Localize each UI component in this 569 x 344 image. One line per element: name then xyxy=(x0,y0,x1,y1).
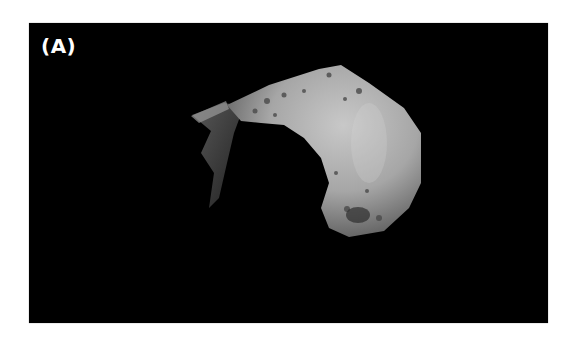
image-panel: (A) xyxy=(29,23,548,323)
asteroid-image xyxy=(29,23,548,323)
panel-label: (A) xyxy=(41,34,76,58)
